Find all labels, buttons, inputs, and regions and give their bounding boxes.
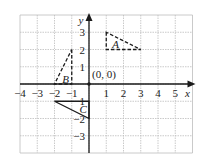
y-axis-label: y <box>78 14 84 26</box>
coordinate-grid: ABC−4−3−2−112345x321−1−2−3y(0, 0) <box>0 0 204 166</box>
x-tick-label: −3 <box>31 87 43 99</box>
origin-label: (0, 0) <box>92 68 116 81</box>
y-tick-label: 2 <box>80 44 86 56</box>
origin-point <box>87 82 91 86</box>
x-tick-label: 3 <box>138 87 144 99</box>
y-axis-arrow-icon <box>86 13 93 21</box>
x-axis-label: x <box>184 87 190 99</box>
x-tick-label: 2 <box>121 87 127 99</box>
triangle-label-a: A <box>111 38 119 50</box>
axes <box>20 13 196 153</box>
x-tick-label: −2 <box>49 87 61 99</box>
y-tick-label: −3 <box>73 130 85 142</box>
triangle-label-b: B <box>62 73 69 85</box>
x-tick-label: 4 <box>155 87 161 99</box>
y-tick-label: 3 <box>80 26 86 38</box>
y-tick-label: −2 <box>73 113 85 125</box>
x-tick-label: −4 <box>14 87 26 99</box>
x-tick-label: 5 <box>173 87 179 99</box>
x-tick-label: 1 <box>104 87 110 99</box>
y-tick-label: −1 <box>73 95 85 107</box>
axis-labels: ABC−4−3−2−112345x321−1−2−3y(0, 0) <box>14 14 190 142</box>
y-tick-label: 1 <box>80 61 86 73</box>
